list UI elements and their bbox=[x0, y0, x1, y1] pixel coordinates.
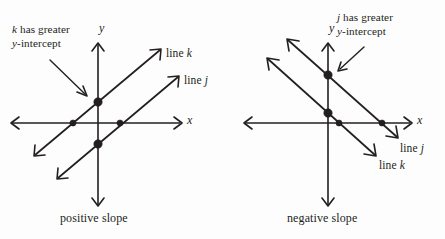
left-line-k-label: line k bbox=[166, 47, 192, 60]
left-line-j-label: line j bbox=[184, 74, 208, 87]
left-caption: positive slope bbox=[60, 212, 128, 225]
left-line-j bbox=[57, 76, 179, 179]
right-panel-graph bbox=[244, 39, 412, 206]
left-line-k-name: k bbox=[187, 47, 192, 59]
left-j-x-intercept-dot bbox=[117, 120, 123, 126]
right-caption: negative slope bbox=[287, 212, 357, 225]
right-j-x-intercept-dot bbox=[379, 120, 385, 126]
left-j-y-intercept-dot bbox=[94, 140, 102, 148]
right-k-x-intercept-dot bbox=[336, 120, 342, 126]
left-annotation-note: k has greater y-intercept bbox=[12, 22, 130, 50]
right-line-j-label: line j bbox=[400, 142, 424, 155]
left-y-axis-label: y bbox=[99, 22, 104, 35]
left-y-axis bbox=[92, 43, 104, 206]
right-line-j-prefix: line bbox=[400, 142, 421, 154]
left-annotation-line1-rest: has greater bbox=[17, 23, 70, 35]
left-x-axis bbox=[11, 117, 182, 129]
right-annotation-line2-rest: -intercept bbox=[342, 25, 386, 37]
right-y-axis-label: y bbox=[329, 22, 334, 35]
right-annotation-line1-rest: has greater bbox=[340, 11, 393, 23]
left-line-j-prefix: line bbox=[184, 74, 205, 86]
right-line-k-prefix: line bbox=[379, 159, 400, 171]
left-callout-arrow bbox=[50, 60, 87, 96]
left-panel-graph bbox=[11, 43, 182, 206]
left-line-k-prefix: line bbox=[166, 47, 187, 59]
right-line-k-label: line k bbox=[379, 159, 405, 172]
left-k-y-intercept-dot bbox=[94, 98, 102, 106]
right-line-k bbox=[267, 58, 376, 156]
left-k-x-intercept-dot bbox=[70, 120, 76, 126]
right-k-y-intercept-dot bbox=[324, 109, 332, 117]
right-x-axis-label: x bbox=[417, 114, 422, 127]
right-line-j-name: j bbox=[421, 142, 424, 154]
right-line-k-name: k bbox=[400, 159, 405, 171]
right-callout-arrow bbox=[338, 47, 364, 71]
left-x-axis-label: x bbox=[187, 114, 192, 127]
right-annotation-note: j has greater y-intercept bbox=[337, 10, 445, 38]
right-j-y-intercept-dot bbox=[324, 71, 332, 79]
left-annotation-line2-rest: -intercept bbox=[17, 37, 61, 49]
right-y-axis bbox=[322, 43, 334, 206]
left-line-j-name: j bbox=[205, 74, 208, 86]
figure-container: k has greater y-intercept y x line k lin… bbox=[0, 0, 445, 239]
